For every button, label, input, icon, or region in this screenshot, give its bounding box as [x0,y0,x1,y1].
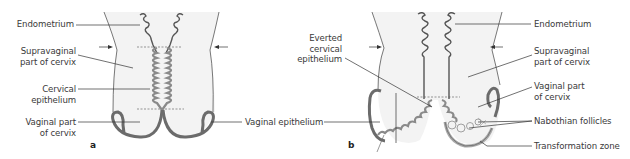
label-a-cervical-line2: epithelium [6,95,76,106]
label-b-supravaginal-line1: Supravaginal [534,46,590,57]
label-a-supravaginal-line2: part of cervix [6,57,76,68]
label-b-nabothian-text: Nabothian follicles [534,116,611,126]
label-a-endometrium: Endometrium [6,19,74,30]
label-a-vaginal-line1: Vaginal part [6,117,76,128]
panel-a-drawing [76,12,242,138]
label-b-vaginal-line1: Vaginal part [534,81,585,92]
label-a-supravaginal-line1: Supravaginal [6,46,76,57]
label-b-vaginal-line2: of cervix [534,92,585,103]
panel-b-drawing [324,12,532,152]
label-b-vaginal-epithelium-text: Vaginal epithelium [245,117,323,127]
label-a-vaginal-part: Vaginal part of cervix [6,117,76,138]
label-a-supravaginal: Supravaginal part of cervix [6,46,76,67]
label-a-cervical-epithelium: Cervical epithelium [6,84,76,105]
label-a-cervical-line1: Cervical [6,84,76,95]
label-b-nabothian-follicles: Nabothian follicles [534,116,611,127]
panel-letter-b: b [348,140,354,150]
label-b-transformation-zone: Transformation zone [534,141,620,152]
panel-letter-a: a [90,140,96,150]
label-b-everted-epithelium: Everted cervical epithelium [270,33,342,65]
label-a-endometrium-text: Endometrium [17,19,74,29]
label-b-endometrium-text: Endometrium [534,19,591,29]
label-b-transformation-text: Transformation zone [534,141,620,151]
label-b-everted-line3: epithelium [270,54,342,65]
label-b-vaginal-part: Vaginal part of cervix [534,81,585,102]
label-b-endometrium: Endometrium [534,19,591,30]
label-b-everted-line1: Everted [270,33,342,44]
label-a-vaginal-line2: of cervix [6,128,76,139]
cervix-diagram-figure: Endometrium Supravaginal part of cervix … [0,0,630,159]
label-b-vaginal-epithelium: Vaginal epithelium [245,117,323,128]
label-b-supravaginal-line2: part of cervix [534,57,590,68]
label-b-supravaginal: Supravaginal part of cervix [534,46,590,67]
label-b-everted-line2: cervical [270,44,342,55]
